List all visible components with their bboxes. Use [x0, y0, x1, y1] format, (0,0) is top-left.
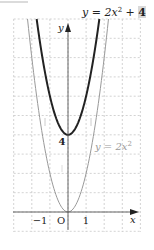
x-axis-label: x: [130, 214, 136, 225]
tick-label-origin: O: [57, 215, 65, 226]
tick-label-4: 4: [59, 136, 66, 147]
y-axis-label: y: [57, 22, 64, 33]
y-axis-arrow-icon: [65, 23, 71, 32]
parabola-plot: y = 2x2 + 4 y x −1 O 1 4 y = 2x2: [0, 0, 154, 250]
tick-label-neg1: −1: [33, 215, 48, 226]
curve-label-y-2x2: y = 2x2: [94, 140, 132, 152]
title-label: y = 2x2 + 4: [81, 6, 146, 19]
tick-label-1: 1: [83, 215, 89, 226]
